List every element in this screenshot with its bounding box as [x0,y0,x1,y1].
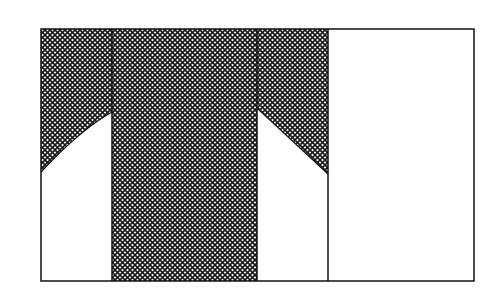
hatched-panel-diagram [0,0,503,301]
section-1-hatch [41,29,112,172]
section-3-hatch [257,29,328,174]
section-2-hatch [112,29,257,281]
